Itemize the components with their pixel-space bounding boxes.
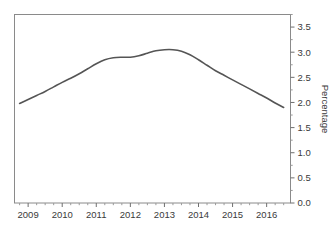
- data-series-group: [20, 50, 284, 108]
- chart-container: 20092010201120122013201420152016 0.00.51…: [0, 0, 336, 231]
- x-tick-label: 2011: [86, 209, 106, 220]
- x-tick-label: 2015: [222, 209, 243, 220]
- y-tick-label: 2.5: [298, 72, 311, 83]
- plot-border: [15, 15, 291, 204]
- x-tick-label: 2016: [256, 209, 277, 220]
- x-tick-label: 2012: [120, 209, 141, 220]
- x-tick-label: 2013: [154, 209, 175, 220]
- x-tick-label: 2010: [52, 209, 73, 220]
- y-axis-title: Percentage: [320, 85, 331, 134]
- x-tick-label: 2014: [188, 209, 209, 220]
- x-tick-label: 2009: [18, 209, 39, 220]
- x-axis-tick-labels: 20092010201120122013201420152016: [18, 209, 278, 220]
- plot-frame: [15, 15, 291, 204]
- series-line-percentage: [20, 50, 284, 108]
- y-tick-label: 1.0: [298, 147, 311, 158]
- y-tick-label: 1.5: [298, 122, 311, 133]
- line-chart: 20092010201120122013201420152016 0.00.51…: [0, 0, 336, 231]
- y-tick-label: 3.0: [298, 47, 311, 58]
- y-tick-label: 0.0: [298, 197, 311, 208]
- y-axis-tick-labels: 0.00.51.01.52.02.53.03.5: [298, 21, 311, 208]
- y-tick-label: 0.5: [298, 172, 311, 183]
- y-tick-label: 2.0: [298, 97, 311, 108]
- y-tick-label: 3.5: [298, 21, 311, 32]
